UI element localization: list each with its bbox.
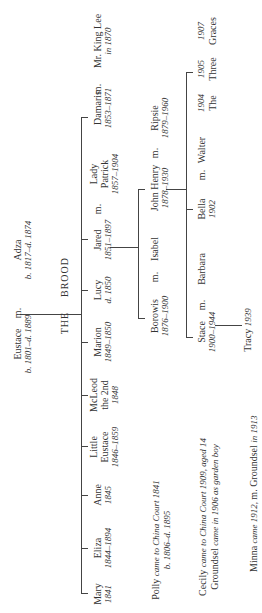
minna-marriage: m. Groundsel <box>248 443 259 500</box>
child-name-line2: Eustace <box>99 419 110 475</box>
child-dates: 1845 <box>103 480 114 510</box>
damaris-marriage: m. <box>92 82 103 96</box>
spouse-isabel: Isabel <box>149 232 160 266</box>
great-great-grandchild-tracy: Tracy 1939 <box>242 300 254 360</box>
grandchild-borowis: Borowis 1876–1900 <box>149 288 171 344</box>
spouse-line2: Patrick <box>99 146 110 202</box>
grace-year: 1905 <box>196 54 207 84</box>
tick-little-eustace <box>81 446 88 447</box>
borowis-marriage: m. <box>149 270 160 284</box>
grandchild-name: John Henry <box>149 160 160 216</box>
spouse-king-lee: Mr. King Lee in 1870 <box>92 8 114 74</box>
bella-marriage: m. <box>196 168 207 182</box>
mother-dates: b. 1817–d. 1874 <box>23 210 34 290</box>
note-polly: Polly came to China Court 1841 b. 1806–d… <box>150 480 173 600</box>
tick-marion <box>81 342 88 343</box>
grace-year: 1904 <box>196 90 207 116</box>
grace-word: The <box>207 90 218 116</box>
great-grandchild-stace: Stace 1900–1944 <box>196 304 218 360</box>
spouse-walter: Walter <box>196 130 207 170</box>
tick-borowis <box>138 318 145 319</box>
child-mcleod: McLeod the 2nd 1848 <box>88 370 121 420</box>
child-dates: 1849–1850 <box>103 314 114 370</box>
three-graces-1904: 1904 The <box>196 90 218 116</box>
child-anne: Anne 1845 <box>92 480 114 510</box>
grandchild-dates: 1878–1930 <box>160 160 171 216</box>
child-jared: Jared 1851–1897 <box>92 212 114 268</box>
mother-adza: Adza b. 1817–d. 1874 <box>12 210 34 290</box>
marriage-label: m. <box>196 300 207 310</box>
groundsel-arrival: came in 1906 as garden boy <box>210 444 220 545</box>
child-dates: 1853–1871 <box>103 80 114 136</box>
note-cecily-groundsel: Cecily came to China Court 1909, aged 14… <box>197 434 221 600</box>
polly-name: Polly <box>150 576 161 600</box>
mother-name: Adza <box>12 210 23 290</box>
john-henry-marriage: m. <box>149 146 160 160</box>
child-name: Anne <box>92 480 103 510</box>
spouse-name: Barbara <box>196 253 207 285</box>
tracy-dates: 1939 <box>243 308 253 326</box>
great-grandchild-dates: 1902 <box>207 194 218 224</box>
spouse-line1: Lady <box>88 146 99 202</box>
tick-eliza <box>81 548 88 549</box>
siblings-line <box>81 117 82 594</box>
spouse-barbara: Barbara <box>196 248 207 290</box>
marriage-label: m. <box>149 148 160 158</box>
tick-stace <box>186 337 193 338</box>
marriage-label: m. <box>92 84 103 94</box>
grandchildren-line <box>138 189 139 319</box>
spouse-name: Isabel <box>149 237 160 261</box>
title-right: BROOD <box>59 257 70 297</box>
polly-arrival: came to China Court 1841 <box>151 480 161 576</box>
minna-marriage-year: in 1913 <box>249 415 259 442</box>
polly-dates: b. 1806–d. 1895 <box>162 480 173 600</box>
child-little-eustace: Little Eustace 1846–1859 <box>88 419 121 475</box>
child-name-line1: McLeod <box>88 370 99 420</box>
marriage-label: m. <box>196 170 207 180</box>
grace-word: Three <box>207 54 218 84</box>
title-brood: BROOD <box>59 252 70 302</box>
tick-mcleod <box>81 395 88 396</box>
child-name: Jared <box>92 212 103 268</box>
spouse-line1: Mr. King Lee <box>92 8 103 74</box>
spouse-name: Ripsie <box>149 90 160 146</box>
minna-arrival: came 1912, <box>249 500 259 544</box>
tick-three-graces <box>186 72 193 73</box>
tick-anne <box>81 495 88 496</box>
child-marion: Marion 1849–1850 <box>92 314 114 370</box>
grace-word: Graces <box>207 14 218 48</box>
father-dates: b. 1801–d. 1889 <box>23 304 34 384</box>
jared-drop-line <box>110 247 139 248</box>
grandchild-name: Borowis <box>149 288 160 344</box>
marriage-label: m. <box>149 272 160 282</box>
grandchild-dates: 1876–1900 <box>160 288 171 344</box>
spouse-lady-patrick: Lady Patrick 1857–1904 <box>88 146 121 202</box>
tick-jared <box>81 239 88 240</box>
child-name-line1: Little <box>88 419 99 475</box>
groundsel-name: Groundsel <box>209 546 220 590</box>
note-minna: Minna came 1912, m. Groundsel in 1913 <box>248 432 260 572</box>
cecily-name: Cecily <box>197 567 208 596</box>
great-grandchild-name: Stace <box>196 304 207 360</box>
marriage-label: m. <box>12 308 23 318</box>
child-dates: 1841 <box>103 576 114 612</box>
minna-name: Minna <box>248 543 259 572</box>
three-graces-1905: 1905 Three <box>196 54 218 84</box>
child-dates: 1851–1897 <box>103 212 114 268</box>
stace-marriage: m. <box>196 298 207 312</box>
spouse-name: Walter <box>196 137 207 163</box>
great-grandchild-dates: 1900–1944 <box>207 304 218 360</box>
title-left: THE <box>59 312 70 334</box>
child-dates: 1844–1894 <box>103 520 114 576</box>
spouse-dates: 1879–1960 <box>160 90 171 146</box>
jared-marriage: m. <box>92 202 103 216</box>
stace-drop-line <box>215 325 242 326</box>
great-grandchild-bella: Bella 1902 <box>196 194 218 224</box>
great-grandchild-name: Bella <box>196 194 207 224</box>
child-name: Mary <box>92 576 103 612</box>
child-dates: 1848 <box>110 370 121 420</box>
grace-year: 1907 <box>196 14 207 48</box>
tick-mary <box>81 593 88 594</box>
three-graces-1907: 1907 Graces <box>196 14 218 48</box>
tick-john-henry <box>138 189 145 190</box>
